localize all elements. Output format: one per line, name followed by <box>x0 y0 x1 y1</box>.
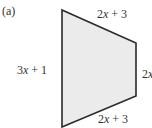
top-side-label: 2x + 3 <box>97 8 127 20</box>
quadrilateral-polygon <box>62 10 136 127</box>
right-side-label: 2x <box>142 68 152 80</box>
left-side-label: 3x + 1 <box>17 64 47 76</box>
part-label: (a) <box>2 5 15 17</box>
bottom-side-label: 2x + 3 <box>98 113 128 125</box>
quadrilateral-figure: (a) 2x + 3 3x + 1 2x 2x + 3 <box>0 0 152 128</box>
